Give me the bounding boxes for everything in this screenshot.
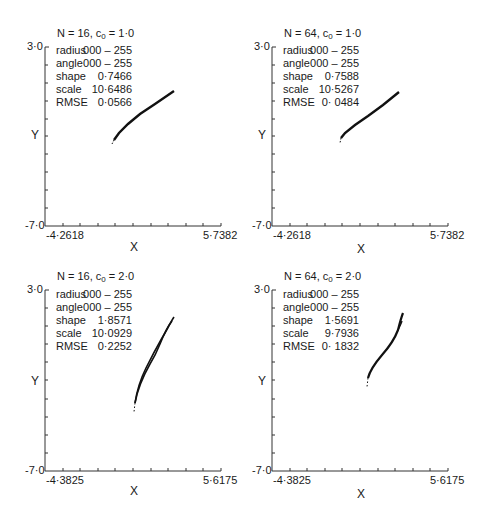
chart-panel-n64-c2: N = 64, c0 = 2·0 3·0 -7·0 Y -4·3825 5·61… <box>0 0 488 523</box>
data-curve <box>368 313 403 378</box>
axes <box>272 290 448 471</box>
plot-area <box>0 0 488 523</box>
